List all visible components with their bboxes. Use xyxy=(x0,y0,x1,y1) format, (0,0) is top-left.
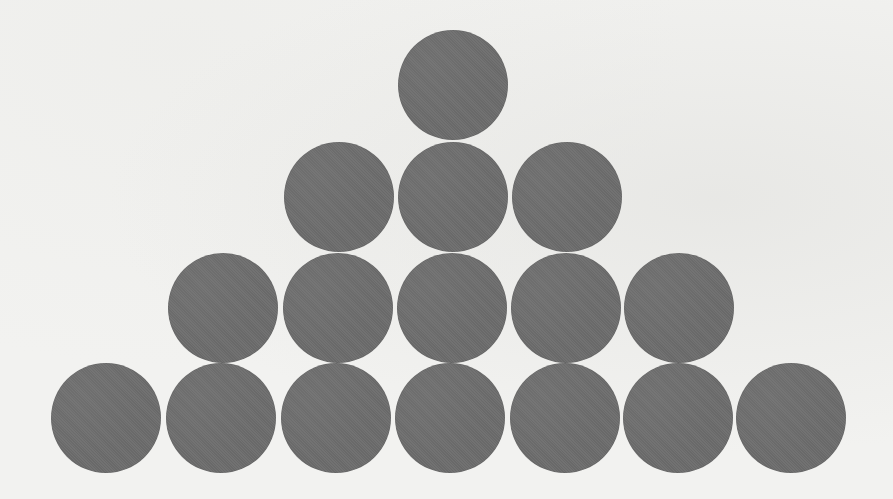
circle xyxy=(395,363,505,473)
circle xyxy=(623,363,733,473)
circle xyxy=(397,253,507,363)
circle xyxy=(284,142,394,252)
circle xyxy=(168,253,278,363)
circle xyxy=(166,363,276,473)
circle xyxy=(624,253,734,363)
circle xyxy=(283,253,393,363)
circle xyxy=(736,363,846,473)
circle xyxy=(510,363,620,473)
triangle-circle-diagram xyxy=(0,0,893,499)
circle xyxy=(51,363,161,473)
circle xyxy=(398,142,508,252)
circle xyxy=(511,253,621,363)
circle xyxy=(512,142,622,252)
circle xyxy=(398,30,508,140)
circle xyxy=(281,363,391,473)
